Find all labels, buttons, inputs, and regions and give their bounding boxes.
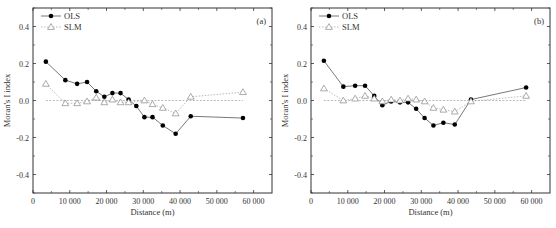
slm-point-marker: [440, 106, 447, 112]
slm-point-marker: [523, 92, 530, 98]
ols-point-marker: [341, 84, 346, 89]
ols-point-marker: [94, 89, 99, 94]
y-tick-label: 0.2: [297, 60, 307, 69]
ols-point-marker: [134, 104, 139, 109]
slm-point-marker: [320, 85, 327, 91]
x-tick-label: 10 000: [59, 197, 81, 206]
x-tick-label: 20 000: [96, 197, 118, 206]
slm-point-marker: [430, 105, 437, 111]
x-tick-label: 60 000: [243, 197, 265, 206]
y-tick-label: 0.2: [19, 60, 29, 69]
ols-point-marker: [110, 91, 115, 96]
ols-point-marker: [524, 85, 529, 90]
slm-point-marker: [84, 98, 91, 104]
ols-point-marker: [241, 116, 246, 121]
y-tick-label: -0.4: [294, 171, 307, 180]
panel-label: (a): [257, 16, 267, 26]
x-tick-label: 40 000: [169, 197, 191, 206]
ols-point-marker: [363, 83, 368, 88]
slm-point-marker: [141, 97, 148, 103]
slm-point-marker: [240, 89, 247, 95]
slm-point-marker: [93, 94, 100, 100]
ols-point-marker: [44, 59, 49, 64]
slm-point-marker: [388, 96, 395, 102]
x-tick-label: 40 000: [447, 197, 469, 206]
slm-point-marker: [109, 96, 116, 102]
ols-point-marker: [441, 120, 446, 125]
ols-point-marker: [142, 115, 147, 120]
series-line-ols: [324, 61, 526, 126]
x-tick-label: 50 000: [206, 197, 228, 206]
ols-point-marker: [118, 91, 123, 96]
y-tick-label: -0.4: [16, 171, 29, 180]
chart-a-svg: 010 00020 00030 00040 00050 00060 000-0.…: [0, 0, 278, 228]
ols-point-marker: [431, 123, 436, 128]
x-tick-label: 30 000: [132, 197, 154, 206]
slm-point-marker: [149, 101, 156, 107]
ols-point-marker: [322, 58, 327, 63]
legend-ols-label: OLS: [342, 11, 358, 21]
ols-point-marker: [173, 132, 178, 137]
legend-slm-label: SLM: [342, 22, 360, 32]
slm-point-marker: [42, 80, 49, 86]
ols-point-marker: [188, 114, 193, 119]
y-tick-label: 0.0: [19, 97, 29, 106]
x-axis-title: Distance (m): [408, 207, 452, 217]
slm-point-marker: [421, 98, 428, 104]
slm-point-marker: [405, 95, 412, 101]
legend-ols-marker-icon: [327, 14, 332, 19]
ols-point-marker: [353, 83, 358, 88]
legend-ols-label: OLS: [64, 11, 80, 21]
ols-point-marker: [414, 107, 419, 112]
x-tick-label: 0: [31, 197, 35, 206]
y-axis-title: Moran's I index: [280, 73, 290, 127]
slm-point-marker: [362, 92, 369, 98]
ols-point-marker: [452, 122, 457, 127]
legend-slm-marker-icon: [326, 24, 333, 30]
x-tick-label: 30 000: [410, 197, 432, 206]
ols-point-marker: [75, 82, 80, 87]
ols-point-marker: [150, 115, 155, 120]
legend-ols-marker-icon: [49, 14, 54, 19]
x-tick-label: 20 000: [374, 197, 396, 206]
y-tick-label: 0.4: [19, 23, 29, 32]
y-tick-label: -0.2: [294, 134, 307, 143]
y-tick-label: -0.2: [16, 134, 29, 143]
ols-point-marker: [63, 78, 68, 83]
legend-slm-marker-icon: [48, 24, 55, 30]
y-axis-title: Moran's I index: [2, 73, 12, 127]
chart-panel-a: 010 00020 00030 00040 00050 00060 000-0.…: [0, 0, 278, 228]
y-tick-label: 0.0: [297, 97, 307, 106]
ols-point-marker: [160, 123, 165, 128]
panel-label: (b): [534, 16, 544, 26]
x-tick-label: 0: [309, 197, 313, 206]
x-tick-label: 60 000: [521, 197, 543, 206]
legend-slm-label: SLM: [64, 22, 82, 32]
slm-point-marker: [413, 96, 420, 102]
slm-point-marker: [117, 99, 124, 105]
chart-b-svg: 010 00020 00030 00040 00050 00060 000-0.…: [278, 0, 556, 228]
y-tick-label: 0.4: [297, 23, 307, 32]
x-tick-label: 10 000: [337, 197, 359, 206]
slm-point-marker: [101, 99, 108, 105]
x-tick-label: 50 000: [484, 197, 506, 206]
chart-panel-b: 010 00020 00030 00040 00050 00060 000-0.…: [278, 0, 556, 228]
x-axis-title: Distance (m): [130, 207, 174, 217]
ols-point-marker: [422, 116, 427, 121]
ols-point-marker: [85, 80, 90, 85]
